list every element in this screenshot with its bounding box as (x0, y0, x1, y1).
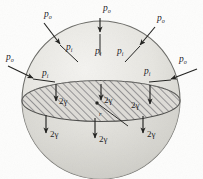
sphere-force-diagram: po po po po po pi pi pi pi pi (0, 0, 203, 179)
paper-grain (0, 0, 203, 179)
